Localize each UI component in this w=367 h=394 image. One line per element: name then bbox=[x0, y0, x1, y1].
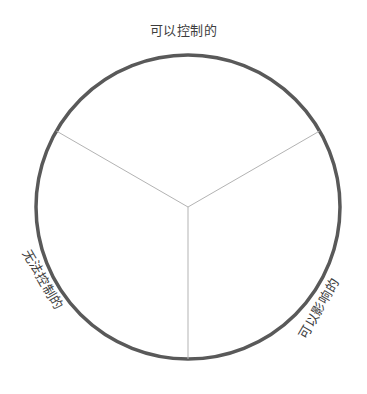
divider-line-upper-right bbox=[188, 131, 320, 207]
divider-line-upper-left bbox=[56, 131, 188, 207]
circle-of-control-diagram: 可以控制的 无法控制的 可以影响的 bbox=[0, 0, 367, 394]
sector-label-controllable: 可以控制的 bbox=[0, 24, 367, 37]
